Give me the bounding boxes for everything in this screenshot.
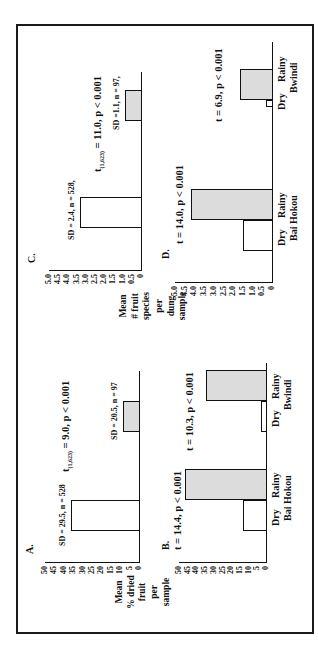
ylabel-line: per	[149, 562, 161, 622]
ylabel-line: species	[141, 276, 153, 336]
y-tick-label: 1.0	[249, 286, 257, 302]
panel-d-ylabel: per dung sample	[154, 276, 189, 336]
y-tick-label: 20	[227, 566, 235, 582]
panel-c-bar-1	[80, 197, 142, 228]
panel-b-cat-rainy-2: Rainy	[270, 373, 281, 399]
panel-a: A. 50454035302520151050 SD = 29.5, n = 5…	[18, 332, 158, 632]
y-tick-label: 30	[210, 566, 218, 582]
y-tick-label: 2.0	[100, 274, 108, 290]
y-tick-label: 30	[79, 566, 87, 582]
y-tick-label: 0	[268, 286, 276, 302]
panel-a-bar-1-annotation: SD = 29.5, n = 528	[58, 484, 67, 546]
stat-prefix: t	[60, 469, 71, 473]
panel-b-cat-dry-2: Dry	[270, 410, 281, 427]
panel-a-stat: t(1,623) = 9.0, p < 0.001	[60, 381, 73, 472]
stat-prefix: t	[92, 169, 103, 173]
panel-a-bar-1	[71, 500, 140, 531]
y-tick-label: 2.5	[91, 274, 99, 290]
y-tick-label: 15	[236, 566, 244, 582]
y-tick-label: 3.5	[200, 286, 208, 302]
y-tick-label: 45	[50, 566, 58, 582]
panel-b-site-2: Bwindi	[282, 379, 293, 410]
y-tick-label: 20	[97, 566, 105, 582]
stat-rest: = 9.0, p < 0.001	[60, 381, 71, 451]
y-tick-label: 4.5	[54, 274, 62, 290]
ylabel-line: per	[154, 276, 166, 336]
panel-d-cat-rainy-2: Rainy	[276, 56, 287, 82]
rotated-figure: A. 50454035302520151050 SD = 29.5, n = 5…	[18, 26, 312, 632]
panel-b-bar-bwindi-dry	[261, 401, 267, 432]
panel-a-bar-2-annotation: SD = 20.5, n = 97	[110, 382, 119, 440]
panel-b-stat-baihokou: t = 14.4, p < 0.001	[172, 471, 183, 550]
panel-a-letter: A.	[24, 544, 35, 554]
y-tick-label: 2.0	[229, 286, 237, 302]
y-tick-label: 3.5	[73, 274, 81, 290]
panel-d-cat-dry-1: Dry	[276, 229, 287, 246]
panel-d-bar-baihokou-rainy	[191, 189, 273, 220]
panel-b-y-axis	[179, 562, 266, 563]
panel-b-letter: B.	[160, 541, 171, 550]
ylabel-line: Mean	[118, 276, 130, 336]
panel-d-site-2: Bwindi	[288, 62, 299, 93]
y-tick-label: 40	[60, 566, 68, 582]
y-tick-label: 50	[175, 566, 183, 582]
panel-d-letter: D.	[160, 249, 171, 259]
panel-d-bar-baihokou-dry	[243, 220, 273, 251]
y-tick-label: 0.5	[258, 286, 266, 302]
panel-b-bar-bwindi-rainy	[206, 370, 267, 401]
ylabel-line: dung	[166, 276, 178, 336]
stat-sub: (1,623)	[67, 451, 73, 469]
y-tick-label: 1.5	[239, 286, 247, 302]
panel-b-stat-bwindi: t = 10.3, p < 0.001	[184, 372, 195, 451]
panel-d-site-1: Bai Hokou	[288, 195, 299, 241]
y-tick-label: 4.0	[63, 274, 71, 290]
panel-d-bar-bwindi-rainy	[240, 69, 273, 100]
y-tick-label: 0	[262, 566, 270, 582]
y-tick-label: 35	[201, 566, 209, 582]
panel-d-stat-baihokou: t = 14.0, p < 0.001	[174, 165, 185, 244]
panel-b-bar-baihokou-rainy	[185, 469, 267, 500]
ylabel-line: fruit	[137, 562, 149, 622]
panel-a-bar-2	[123, 401, 140, 432]
panel-b-bar-baihokou-dry	[243, 500, 267, 531]
y-tick-label: 2.5	[220, 286, 228, 302]
y-tick-label: 50	[41, 566, 49, 582]
panel-b-ylabel: per sample	[149, 562, 172, 622]
ylabel-line: # fruit	[130, 276, 142, 336]
panel-c: C. 5.04.54.03.53.02.52.01.51.00.50 SD = …	[18, 26, 158, 342]
ylabel-line: Mean	[114, 562, 126, 622]
panel-d-y-axis	[175, 282, 272, 283]
panel-d-cat-dry-2: Dry	[276, 93, 287, 110]
y-tick-label: 1.5	[109, 274, 117, 290]
ylabel-line: % dried	[126, 562, 138, 622]
y-tick-label: 3.0	[82, 274, 90, 290]
y-tick-label: 5.0	[45, 274, 53, 290]
panel-b-site-1: Bai Hokou	[282, 475, 293, 521]
stat-sub: (1,623)	[99, 151, 105, 169]
panel-b-cat-rainy-1: Rainy	[270, 472, 281, 498]
panel-d-cat-rainy-1: Rainy	[276, 192, 287, 218]
stat-rest: = 11.0, p < 0.001	[92, 76, 103, 151]
panel-c-y-axis	[49, 270, 141, 271]
panel-a-ylabel: Mean % dried fruit	[114, 562, 149, 622]
panel-b: B. 50454035302520151050 t = 14.4, p < 0.…	[158, 332, 314, 632]
panel-b-cat-dry-1: Dry	[270, 509, 281, 526]
panel-c-ylabel: Mean # fruit species	[118, 276, 153, 336]
panel-c-letter: C.	[26, 253, 37, 263]
figure-frame: A. 50454035302520151050 SD = 29.5, n = 5…	[16, 24, 314, 634]
panel-d: D. 5.04.54.03.53.02.52.01.51.00.50 t = 1…	[158, 26, 314, 342]
panel-c-bar-1-annotation: SD = 2.4, n = 528,	[67, 180, 76, 240]
panel-d-bar-bwindi-dry	[266, 100, 273, 107]
y-tick-label: 4.0	[190, 286, 198, 302]
panel-a-x-axis	[139, 371, 140, 563]
ylabel-line: sample	[177, 276, 189, 336]
panel-c-stat: t(1,623) = 11.0, p < 0.001	[92, 76, 105, 172]
panel-d-stat-bwindi: t = 6.9, p < 0.001	[213, 48, 224, 122]
y-tick-label: 35	[69, 566, 77, 582]
ylabel-line: sample	[161, 562, 173, 622]
panel-c-bar-2-annotation: SD =1.1, n = 97,	[112, 76, 121, 130]
y-tick-label: 25	[88, 566, 96, 582]
panel-c-bar-2	[125, 90, 142, 121]
y-tick-label: 3.0	[210, 286, 218, 302]
